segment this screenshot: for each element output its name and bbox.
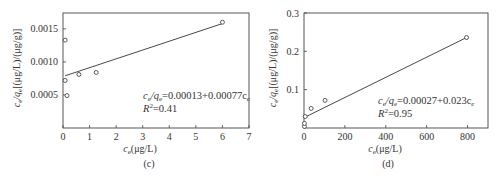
x-tick-label: 800 — [460, 131, 475, 142]
x-tick-label: 600 — [419, 131, 434, 142]
y-tick-label: 0.3 — [287, 8, 300, 19]
data-point — [302, 121, 306, 125]
data-point — [220, 20, 224, 24]
r-squared: R2=0.41 — [142, 102, 177, 114]
y-tick-label: 0.0010 — [31, 56, 59, 67]
data-point — [323, 98, 327, 102]
y-tick-label: 0.1 — [287, 84, 300, 95]
y-tick-label: 0.0005 — [31, 89, 59, 100]
x-axis-label: ce(μg/L) — [368, 143, 401, 156]
data-point — [94, 70, 98, 74]
x-tick-label: 400 — [378, 131, 393, 142]
data-point — [77, 72, 81, 76]
x-tick-label: 0 — [61, 131, 66, 142]
chart-panel-c: 01234567 0.00050.00100.0015 ce/qe=0.0001… — [11, 13, 252, 170]
x-axis-label: ce(μg/L) — [123, 143, 156, 156]
equation: ce/qe=0.00027+0.023ce — [378, 95, 474, 108]
r-squared: R2=0.95 — [377, 107, 412, 119]
panel-label: (c) — [143, 158, 154, 170]
figure: 01234567 0.00050.00100.0015 ce/qe=0.0001… — [0, 0, 496, 177]
panel-label: (d) — [382, 158, 394, 170]
x-tick-label: 200 — [337, 131, 352, 142]
x-tick-label: 1 — [87, 131, 92, 142]
data-point — [63, 78, 67, 82]
equation: ce/qe=0.00013+0.00077ce — [143, 90, 250, 103]
data-point — [303, 115, 307, 119]
data-point — [65, 94, 69, 98]
x-tick-label: 5 — [193, 131, 198, 142]
fit-line — [65, 24, 222, 76]
y-tick-label: 0.0015 — [31, 23, 59, 34]
data-point — [63, 38, 67, 42]
data-point — [309, 106, 313, 110]
x-tick-label: 2 — [114, 131, 119, 142]
x-tick-label: 0 — [302, 131, 307, 142]
x-tick-label: 4 — [167, 131, 172, 142]
data-point — [465, 36, 469, 40]
y-axis-label: ce/qe[(μg/L)/(μg/g)] — [11, 29, 24, 108]
y-axis-ticks: 0.00050.00100.0015 — [31, 23, 67, 100]
y-axis-label: ce/qe[(μg/L)/(μg/g)] — [267, 29, 280, 108]
x-tick-label: 3 — [140, 131, 145, 142]
y-tick-label: 0.2 — [287, 46, 300, 57]
x-tick-label: 7 — [247, 131, 252, 142]
x-tick-label: 6 — [220, 131, 225, 142]
chart-panel-d: 0200400600800 0.10.20.3 ce/qe=0.00027+0.… — [267, 8, 488, 171]
data-points — [63, 20, 224, 97]
